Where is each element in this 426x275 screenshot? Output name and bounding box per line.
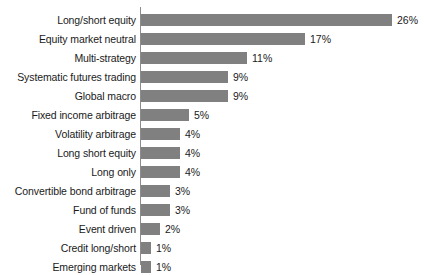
bar-zone: 4%: [141, 147, 426, 159]
bar-row: Credit long/short1%: [0, 238, 426, 257]
value-label: 2%: [165, 223, 180, 235]
bar-zone: 1%: [141, 261, 426, 273]
bar: [141, 166, 180, 178]
category-label: Equity market neutral: [0, 33, 136, 45]
bar-zone: 26%: [141, 14, 426, 26]
bar-row: Equity market neutral17%: [0, 29, 426, 48]
bar-zone: 3%: [141, 185, 426, 197]
bar-zone: 17%: [141, 33, 426, 45]
bar-zone: 11%: [141, 52, 426, 64]
bar-row: Event driven2%: [0, 219, 426, 238]
bar: [141, 223, 160, 235]
plot-area: Long/short equity26%Equity market neutra…: [0, 10, 426, 275]
value-label: 5%: [194, 109, 209, 121]
bar: [141, 185, 170, 197]
bar: [141, 109, 189, 121]
horizontal-bar-chart: Long/short equity26%Equity market neutra…: [0, 0, 426, 275]
bar-row: Global macro9%: [0, 86, 426, 105]
value-label: 9%: [233, 71, 248, 83]
category-label: Long/short equity: [0, 14, 136, 26]
bar-row: Long short equity4%: [0, 143, 426, 162]
bar-zone: 4%: [141, 166, 426, 178]
value-label: 1%: [156, 242, 171, 254]
category-label: Emerging markets: [0, 261, 136, 273]
bar: [141, 147, 180, 159]
category-label: Fund of funds: [0, 204, 136, 216]
bar-row: Systematic futures trading9%: [0, 67, 426, 86]
value-label: 1%: [156, 261, 171, 273]
category-label: Convertible bond arbitrage: [0, 185, 136, 197]
category-label: Credit long/short: [0, 242, 136, 254]
bar-row: Fund of funds3%: [0, 200, 426, 219]
category-label: Global macro: [0, 90, 136, 102]
bar: [141, 33, 305, 45]
value-label: 4%: [185, 128, 200, 140]
category-label: Multi-strategy: [0, 52, 136, 64]
value-label: 4%: [185, 166, 200, 178]
bar-zone: 5%: [141, 109, 426, 121]
bar-zone: 2%: [141, 223, 426, 235]
value-label: 3%: [175, 204, 190, 216]
category-label: Event driven: [0, 223, 136, 235]
value-label: 26%: [397, 14, 418, 26]
value-label: 9%: [233, 90, 248, 102]
bar-row: Long/short equity26%: [0, 10, 426, 29]
bar-row: Convertible bond arbitrage3%: [0, 181, 426, 200]
bar: [141, 242, 151, 254]
category-label: Long short equity: [0, 147, 136, 159]
category-label: Systematic futures trading: [0, 71, 136, 83]
value-label: 4%: [185, 147, 200, 159]
bar-zone: 4%: [141, 128, 426, 140]
bar: [141, 52, 247, 64]
category-label: Fixed income arbitrage: [0, 109, 136, 121]
bar-zone: 1%: [141, 242, 426, 254]
bar: [141, 14, 392, 26]
bar-row: Emerging markets1%: [0, 257, 426, 275]
bar: [141, 90, 228, 102]
bar: [141, 128, 180, 140]
value-label: 17%: [310, 33, 331, 45]
value-label: 11%: [252, 52, 272, 64]
bar-row: Long only4%: [0, 162, 426, 181]
bar-row: Multi-strategy11%: [0, 48, 426, 67]
value-label: 3%: [175, 185, 190, 197]
category-label: Volatility arbitrage: [0, 128, 136, 140]
bar-row: Fixed income arbitrage5%: [0, 105, 426, 124]
bar-zone: 9%: [141, 71, 426, 83]
bar: [141, 204, 170, 216]
bar: [141, 71, 228, 83]
bar-row: Volatility arbitrage4%: [0, 124, 426, 143]
bar-zone: 3%: [141, 204, 426, 216]
bar-zone: 9%: [141, 90, 426, 102]
category-label: Long only: [0, 166, 136, 178]
bar: [141, 261, 151, 273]
